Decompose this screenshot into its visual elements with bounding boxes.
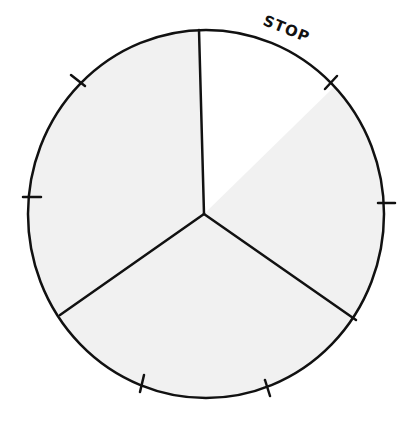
spinner-diagram: STOP — [0, 0, 416, 423]
